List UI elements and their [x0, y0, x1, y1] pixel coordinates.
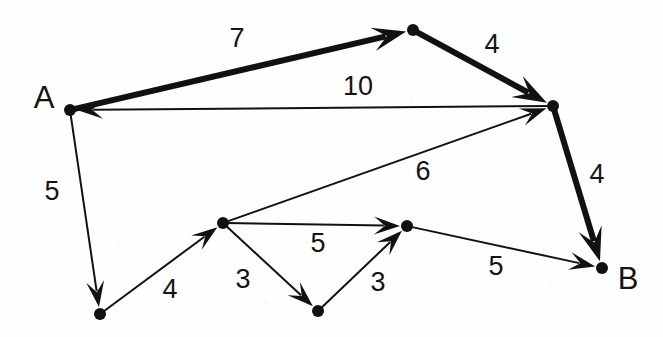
edge-line-group [70, 31, 594, 313]
graph-edge-n3-B [554, 108, 594, 241]
edge-weight-label: 4 [589, 159, 604, 189]
node-label-group: AB [34, 80, 639, 296]
edge-weight-label: 3 [370, 267, 385, 297]
edge-weight-label: 7 [229, 23, 244, 53]
graph-node-n6 [217, 217, 229, 229]
graph-edge-n6-n3 [225, 114, 532, 223]
arrowhead-group [77, 28, 602, 307]
graph-edge-n3-A [93, 106, 551, 110]
graph-edge-n6-n8 [225, 223, 384, 226]
graph-edge-n5-n6 [101, 237, 204, 313]
graph-node-B [596, 262, 608, 274]
edge-weight-label: 10 [343, 71, 373, 101]
edge-weight-label: 6 [415, 156, 430, 186]
node-label-A: A [34, 80, 55, 115]
edge-weight-label: 4 [484, 29, 499, 59]
graph-edge-A-n5 [70, 112, 96, 291]
edge-weight-label: 5 [488, 251, 503, 281]
graph-node-A [64, 104, 76, 116]
edge-weight-label: 5 [310, 228, 325, 258]
graph-node-n7 [312, 305, 324, 317]
graph-node-n3 [547, 100, 559, 112]
arrowhead-n5-n6 [191, 227, 217, 250]
node-dot-group [64, 24, 608, 320]
graph-node-n5 [94, 308, 106, 320]
graph-node-n8 [401, 220, 413, 232]
graph-diagram: 741045465335 AB [0, 0, 663, 337]
edge-weight-label: 4 [162, 274, 177, 304]
edge-weight-label: 5 [44, 176, 59, 206]
graph-canvas: 741045465335 AB [0, 0, 663, 337]
node-label-B: B [618, 261, 639, 296]
graph-node-n2 [407, 24, 419, 36]
graph-edge-n2-n3 [415, 31, 529, 93]
edge-weight-label-group: 741045465335 [44, 23, 604, 304]
edge-weight-label: 3 [235, 264, 250, 294]
